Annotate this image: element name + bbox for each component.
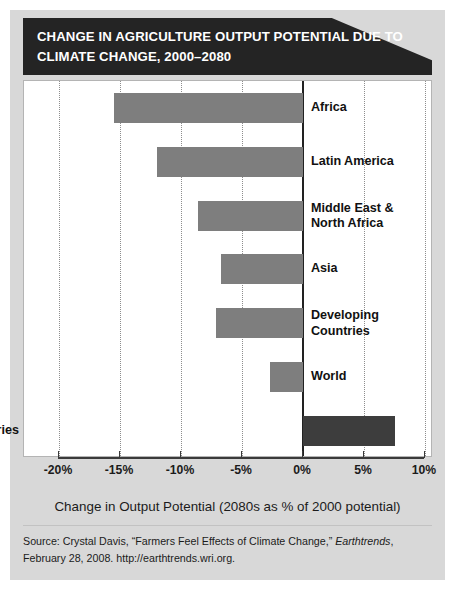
bar-row: World — [24, 350, 431, 404]
x-tick — [180, 451, 181, 458]
x-tick — [363, 451, 364, 458]
bar — [270, 362, 303, 392]
bar — [114, 93, 303, 123]
source-publication: Earthtrends — [335, 535, 390, 547]
x-tick-label: 10% — [412, 463, 436, 477]
bar-label: Asia — [311, 262, 338, 277]
x-tick-label: -5% — [230, 463, 252, 477]
bar-label: Industrial Countries — [0, 423, 19, 438]
bar-label: Africa — [311, 100, 347, 115]
figure-container: CHANGE IN AGRICULTURE OUTPUT POTENTIAL D… — [10, 10, 445, 580]
x-tick-label: -10% — [166, 463, 194, 477]
bar-label: World — [311, 370, 346, 385]
title-banner: CHANGE IN AGRICULTURE OUTPUT POTENTIAL D… — [23, 18, 432, 75]
bar-row: Asia — [24, 243, 431, 297]
bar-row: Industrial Countries — [24, 404, 431, 458]
bar-row: Middle East & North Africa — [24, 189, 431, 243]
x-tick — [424, 451, 425, 458]
bar — [221, 254, 303, 284]
x-tick-label: 5% — [354, 463, 372, 477]
x-tick-label: -20% — [44, 463, 72, 477]
bar-row: Developing Countries — [24, 296, 431, 350]
bar-row: Africa — [24, 81, 431, 135]
x-tick-label: -15% — [105, 463, 133, 477]
source-text-pre: Source: Crystal Davis, “Farmers Feel Eff… — [23, 535, 335, 547]
x-tick — [241, 451, 242, 458]
bar — [303, 416, 395, 446]
bar — [198, 201, 303, 231]
bar — [216, 308, 303, 338]
x-tick — [119, 451, 120, 458]
x-tick — [302, 451, 303, 458]
chart-plot-area: AfricaLatin AmericaMiddle East & North A… — [23, 80, 432, 457]
source-text-line2: February 28, 2008. http://earthtrends.wr… — [23, 552, 235, 564]
x-tick — [58, 451, 59, 458]
bar-row: Latin America — [24, 135, 431, 189]
source-divider — [23, 525, 432, 526]
bar-label: Developing Countries — [311, 308, 379, 339]
source-note: Source: Crystal Davis, “Farmers Feel Eff… — [23, 533, 428, 566]
bar-label: Middle East & North Africa — [311, 200, 394, 231]
bar — [157, 147, 303, 177]
x-axis-title: Change in Output Potential (2080s as % o… — [23, 499, 432, 514]
bar-label: Latin America — [311, 154, 394, 169]
source-text-post: , — [390, 535, 393, 547]
x-axis: -20%-15%-10%-5%0%5%10% — [23, 457, 432, 497]
page-title: CHANGE IN AGRICULTURE OUTPUT POTENTIAL D… — [37, 27, 407, 66]
x-tick-label: 0% — [293, 463, 311, 477]
